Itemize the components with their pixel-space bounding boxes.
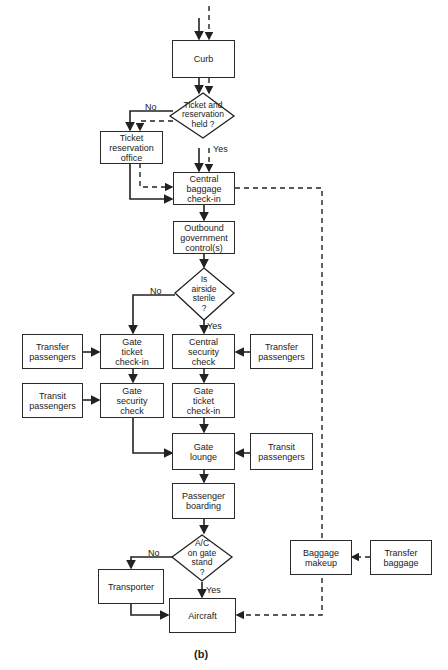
node-ticket-reservation-office: Ticket reservation office xyxy=(100,131,163,164)
edge-label-ticket-no: No xyxy=(145,102,157,112)
decision-ac-on-stand-label: A/C on gate stand ? xyxy=(178,538,226,578)
node-gate-security-check: Gate security check xyxy=(100,383,164,418)
node-transporter: Transporter xyxy=(98,569,164,604)
node-outbound-government-controls: Outbound government control(s) xyxy=(173,221,235,254)
node-curb: Curb xyxy=(172,40,235,78)
edge-label-stand-yes: Yes xyxy=(206,585,221,595)
node-baggage-makeup: Baggage makeup xyxy=(290,540,352,575)
node-aircraft: Aircraft xyxy=(169,598,236,633)
node-transit-passengers-left: Transit passengers xyxy=(22,383,83,418)
node-central-baggage-check-in: Central baggage check-in xyxy=(173,172,235,205)
figure-caption: (b) xyxy=(194,648,208,660)
node-gate-ticket-check-in-left: Gate ticket check-in xyxy=(100,334,164,369)
decision-ticket-held-label: Ticket and reservation held ? xyxy=(170,100,236,130)
node-gate-lounge: Gate lounge xyxy=(172,433,235,470)
node-transfer-passengers-right: Transfer passengers xyxy=(250,334,313,369)
node-passenger-boarding: Passenger boarding xyxy=(172,483,235,519)
node-central-security-check: Central security check xyxy=(172,334,235,369)
edge-label-sterile-yes: Yes xyxy=(207,321,222,331)
node-gate-ticket-check-in-right: Gate ticket check-in xyxy=(172,383,235,418)
edge-label-stand-no: No xyxy=(148,548,160,558)
node-transfer-baggage: Transfer baggage xyxy=(370,540,432,575)
edge-label-ticket-yes: Yes xyxy=(213,144,228,154)
node-transfer-passengers-left: Transfer passengers xyxy=(22,334,83,369)
edge-label-sterile-no: No xyxy=(150,286,162,296)
node-transit-passengers-right: Transit passengers xyxy=(250,433,313,470)
decision-airside-sterile-label: Is airside sterile ? xyxy=(180,272,228,316)
